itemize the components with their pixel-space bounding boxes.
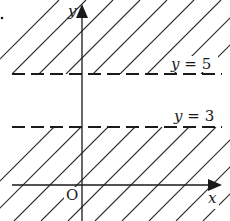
boundary-label-y5-op: = xyxy=(184,55,197,73)
boundary-label-y5: y = 5 xyxy=(171,57,211,72)
boundary-label-y3: y = 3 xyxy=(174,109,214,124)
margin-dot xyxy=(1,17,4,20)
boundary-label-y3-value: 3 xyxy=(205,107,215,125)
y-axis-arrowhead-icon xyxy=(76,4,88,18)
boundary-label-y5-value: 5 xyxy=(202,55,212,73)
x-axis-label: x xyxy=(208,191,216,206)
origin-label: O xyxy=(66,188,78,203)
boundary-label-y5-var: y xyxy=(171,55,179,73)
y-axis-label: y xyxy=(68,4,76,19)
boundary-label-y3-op: = xyxy=(187,107,200,125)
boundary-label-y3-var: y xyxy=(174,107,182,125)
hatching-region-lower xyxy=(0,127,230,221)
inequality-diagram: y x O y = 5 y = 3 xyxy=(0,0,230,221)
